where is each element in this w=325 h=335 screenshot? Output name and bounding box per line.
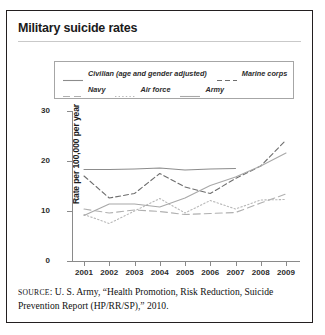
x-tick xyxy=(84,261,85,266)
page-title: Military suicide rates xyxy=(18,21,137,35)
x-tick xyxy=(261,261,262,266)
legend-row-1: Civilian (age and gender adjusted)Marine… xyxy=(63,66,297,80)
legend-label: Civilian (age and gender adjusted) xyxy=(88,69,207,78)
legend-swatch-icon xyxy=(217,70,237,77)
series-line xyxy=(84,153,286,216)
series-canvas xyxy=(72,111,300,261)
y-tick xyxy=(67,261,72,262)
source-text: : U. S. Army, “Health Promotion, Risk Re… xyxy=(18,286,273,311)
x-tick xyxy=(185,261,186,266)
legend-swatch-icon xyxy=(63,86,83,93)
y-tick-label: 10 xyxy=(20,206,50,215)
legend-item: Air force xyxy=(115,85,170,94)
legend-item: Army xyxy=(180,85,224,94)
series-line xyxy=(84,168,236,170)
legend-swatch-icon xyxy=(63,70,83,77)
x-tick-label: 2009 xyxy=(271,268,301,277)
x-tick xyxy=(236,261,237,266)
legend-label: Navy xyxy=(88,85,105,94)
legend-item: Marine corps xyxy=(217,69,287,78)
y-tick-label: 20 xyxy=(20,156,50,165)
legend-row-2: NavyAir forceArmy xyxy=(63,82,234,96)
legend-label: Army xyxy=(205,85,224,94)
x-axis-line xyxy=(72,261,300,262)
y-tick-label: 30 xyxy=(20,106,50,115)
line-chart-svg xyxy=(72,111,300,261)
legend-swatch-icon xyxy=(115,86,135,93)
x-tick xyxy=(286,261,287,266)
legend-swatch-icon xyxy=(180,86,200,93)
legend-label: Marine corps xyxy=(242,69,287,78)
title-divider xyxy=(18,41,301,42)
legend-item: Navy xyxy=(63,85,105,94)
chart-legend: Civilian (age and gender adjusted)Marine… xyxy=(54,61,294,99)
legend-item: Civilian (age and gender adjusted) xyxy=(63,69,207,78)
x-tick xyxy=(160,261,161,266)
y-tick-label: 0 xyxy=(20,256,50,265)
source-caption: SOURCE: U. S. Army, “Health Promotion, R… xyxy=(18,286,303,312)
x-tick xyxy=(135,261,136,266)
source-label: SOURCE xyxy=(18,288,50,297)
series-line xyxy=(84,199,286,224)
chart-plot-area: Rate per 100,000 per year 0102030 200120… xyxy=(54,111,302,279)
x-tick xyxy=(210,261,211,266)
figure-panel: Military suicide rates Civilian (age and… xyxy=(6,10,313,323)
x-tick xyxy=(109,261,110,266)
legend-label: Air force xyxy=(140,85,170,94)
